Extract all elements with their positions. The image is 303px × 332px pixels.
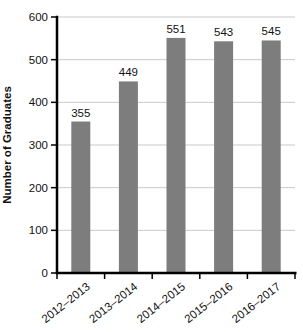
y-tick-label: 500 bbox=[29, 54, 48, 66]
bar-value-label: 543 bbox=[214, 26, 233, 38]
y-axis-tick-labels: 0100200300400500600 bbox=[29, 11, 48, 279]
bar-2016–2017 bbox=[262, 40, 281, 273]
chart-canvas: 355449551543545 0100200300400500600 2012… bbox=[0, 0, 303, 332]
bar-value-label: 355 bbox=[71, 107, 90, 119]
y-tick-label: 0 bbox=[42, 267, 48, 279]
bar-2012–2013 bbox=[71, 122, 90, 273]
x-tick-label: 2015–2016 bbox=[182, 280, 235, 325]
x-tick-label: 2016–2017 bbox=[230, 280, 283, 325]
x-tick-label: 2013–2014 bbox=[87, 280, 140, 325]
y-tick-label: 100 bbox=[29, 224, 48, 236]
y-tick-label: 300 bbox=[29, 139, 48, 151]
bar-value-label: 545 bbox=[262, 25, 281, 37]
x-tick-label: 2014–2015 bbox=[134, 280, 187, 325]
graduates-bar-chart: 355449551543545 0100200300400500600 2012… bbox=[0, 0, 303, 332]
bars bbox=[71, 38, 280, 273]
x-axis-tick-labels: 2012–20132013–20142014–20152015–20162016… bbox=[39, 280, 282, 325]
bar-2014–2015 bbox=[167, 38, 186, 273]
bar-value-label: 551 bbox=[166, 23, 185, 35]
y-tick-label: 200 bbox=[29, 182, 48, 194]
bar-value-label: 449 bbox=[119, 66, 138, 78]
x-tick-label: 2012–2013 bbox=[39, 280, 92, 325]
y-tick-label: 400 bbox=[29, 96, 48, 108]
bar-2013–2014 bbox=[119, 81, 138, 273]
bar-2015–2016 bbox=[214, 41, 233, 273]
y-axis-title: Number of Graduates bbox=[1, 86, 13, 204]
y-tick-label: 600 bbox=[29, 11, 48, 23]
